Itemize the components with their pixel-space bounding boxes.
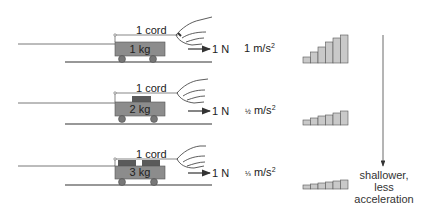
- wheel: [150, 56, 157, 63]
- staircase-1: [303, 35, 348, 63]
- force-label: 1 N: [212, 167, 229, 179]
- acceleration-label: 1 m/s2: [244, 42, 275, 54]
- mass-label: 2 kg: [115, 103, 165, 115]
- cord-label: 1 cord: [136, 82, 167, 94]
- acceleration-label: ⅓ m/s2: [245, 166, 276, 180]
- weight-block: [132, 96, 151, 102]
- staircase-2: [303, 111, 348, 125]
- hand-icon: [177, 79, 208, 103]
- acceleration-label: ½ m/s2: [245, 104, 276, 118]
- staircase-3: [303, 180, 348, 189]
- hand-icon: [177, 146, 206, 168]
- mass-label: 3 kg: [115, 166, 165, 178]
- cord-label: 1 cord: [136, 148, 167, 160]
- trend-note: shallower, less acceleration: [353, 169, 415, 205]
- row-2-apparatus: [18, 79, 212, 124]
- wheel: [119, 56, 126, 63]
- force-label: 1 N: [212, 105, 229, 117]
- mass-label: 1 kg: [115, 43, 165, 55]
- cord-label: 1 cord: [136, 24, 167, 36]
- force-label: 1 N: [212, 43, 229, 55]
- row-1-apparatus: [18, 17, 212, 63]
- hand-icon: [176, 17, 212, 45]
